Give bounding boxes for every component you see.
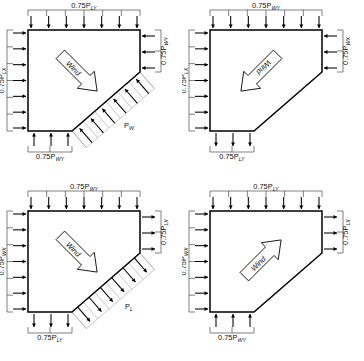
svg-text:0.75PWX: 0.75PWX: [182, 247, 189, 275]
load-left: [7, 30, 26, 131]
load-top: [28, 10, 140, 28]
panel-bottom-left: 0.75PWY0.75PWX0.75PLX0.75PLYPLWind: [0, 181, 182, 361]
load-top: [210, 191, 322, 209]
load-top: [28, 191, 140, 209]
load-left: [189, 30, 208, 131]
load-top: [210, 10, 322, 28]
wind-load-figure: 0.75PLY0.75PLX0.75PWY0.75PWYPWWind 0.75P…: [0, 0, 364, 361]
svg-text:0.75PWY: 0.75PWY: [70, 182, 98, 192]
svg-text:0.75PLY: 0.75PLY: [219, 152, 245, 162]
panel-drawing: 0.75PLY0.75PWX0.75PLX0.75PWYWind: [182, 181, 364, 361]
svg-text:0.75PLX: 0.75PLX: [0, 67, 7, 93]
svg-text:0.75PLY: 0.75PLY: [37, 333, 63, 343]
svg-text:PL: PL: [125, 302, 133, 312]
load-bottom: [210, 133, 254, 152]
svg-text:0.75PWY: 0.75PWY: [36, 152, 64, 162]
load-bottom: [28, 133, 72, 152]
load-left: [7, 211, 26, 312]
panel-top-right: 0.75PWY0.75PLX0.75PWX0.75PLYWind: [182, 0, 364, 180]
svg-text:0.75PWY: 0.75PWY: [159, 37, 169, 65]
load-bottom: [28, 314, 72, 333]
svg-text:0.75PLX: 0.75PLX: [341, 219, 351, 245]
svg-text:0.75PWY: 0.75PWY: [218, 333, 246, 343]
svg-text:0.75PLY: 0.75PLY: [71, 1, 97, 11]
panel-bottom-right: 0.75PLY0.75PWX0.75PLX0.75PWYWind: [182, 181, 364, 361]
svg-text:0.75PWX: 0.75PWX: [0, 247, 7, 275]
svg-text:0.75PLX: 0.75PLX: [159, 219, 169, 245]
svg-text:0.75PWX: 0.75PWX: [341, 37, 351, 65]
panel-drawing: 0.75PLY0.75PLX0.75PWY0.75PWYPWWind: [0, 0, 182, 181]
panel-top-left: 0.75PLY0.75PLX0.75PWY0.75PWYPWWind: [0, 0, 182, 180]
panel-drawing: 0.75PWY0.75PWX0.75PLX0.75PLYPLWind: [0, 181, 182, 361]
panel-drawing: 0.75PWY0.75PLX0.75PWX0.75PLYWind: [182, 0, 364, 181]
load-left: [189, 211, 208, 312]
svg-text:0.75PLY: 0.75PLY: [253, 182, 279, 192]
building-outline: [210, 30, 322, 131]
svg-text:0.75PWY: 0.75PWY: [252, 1, 280, 11]
svg-text:PW: PW: [124, 121, 135, 131]
svg-text:0.75PLX: 0.75PLX: [182, 67, 189, 93]
load-bottom: [210, 314, 254, 333]
